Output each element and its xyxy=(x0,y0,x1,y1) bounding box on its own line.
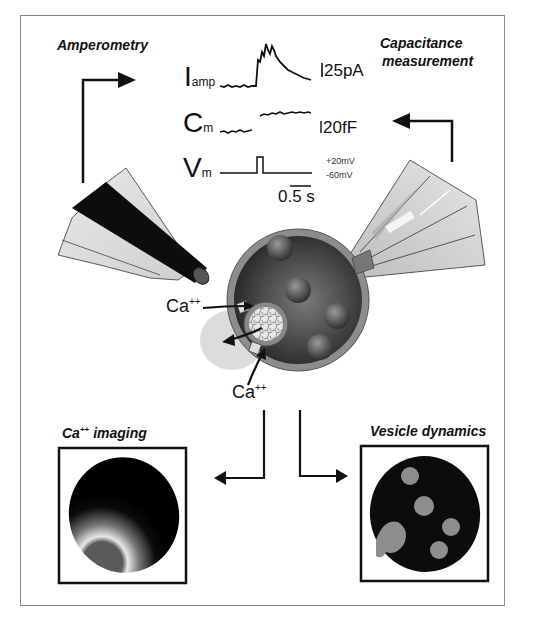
diagram-graphics xyxy=(0,0,539,617)
capacitance-arrow xyxy=(392,113,452,162)
diagram: Amperometry Capacitance measurement Ca++… xyxy=(0,0,539,617)
iamp-label: Iamp xyxy=(184,63,215,91)
voltage-trace xyxy=(220,157,312,186)
chromaffin-cell xyxy=(227,229,374,371)
time-scale-label: 0.5 s xyxy=(278,187,315,207)
amperometric-trace xyxy=(220,44,322,87)
ca-ion-lower: Ca++ xyxy=(232,382,267,403)
cm-scale: 20fF xyxy=(323,118,357,138)
split-arrows xyxy=(214,410,348,485)
ca-imaging-title: Ca++ imaging xyxy=(62,425,147,441)
vesicle-dynamics-title: Vesicle dynamics xyxy=(370,423,486,439)
carbon-fiber-electrode xyxy=(58,168,212,287)
ca-imaging-panel xyxy=(56,445,192,586)
capacitance-trace xyxy=(220,112,321,133)
vesicle xyxy=(267,235,293,261)
vm-high: +20mV xyxy=(326,156,355,166)
vesicle-dynamics-panel xyxy=(361,446,489,581)
amperometry-title: Amperometry xyxy=(57,37,148,53)
capacitance-title-line1: Capacitance xyxy=(380,35,462,51)
vm-label: Vm xyxy=(183,154,212,182)
iamp-scale: 25pA xyxy=(324,61,364,81)
vesicle xyxy=(285,277,311,303)
vesicle xyxy=(324,303,350,329)
vm-low: -60mV xyxy=(326,170,353,180)
amperometry-arrow xyxy=(83,72,136,183)
cm-label: Cm xyxy=(183,109,213,137)
capacitance-title-line2: measurement xyxy=(382,53,473,69)
fusing-vesicle xyxy=(249,307,283,341)
vesicle xyxy=(307,334,333,360)
ca-ion-upper: Ca++ xyxy=(166,296,201,317)
